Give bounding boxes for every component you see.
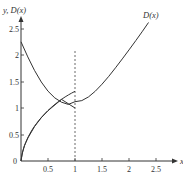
y-tick-label: 2 [15, 51, 19, 60]
y-axis-arrow-icon [19, 16, 24, 22]
x-tick-label: 2.5 [151, 165, 161, 174]
x-axis-title: x [179, 156, 183, 166]
y-axis-title: y, D(x) [2, 5, 26, 15]
x-axis-arrow-icon [172, 159, 178, 164]
x-tick-label: 2 [127, 165, 131, 174]
sqrt-curve [21, 91, 75, 161]
x-tick-label: 1 [73, 165, 77, 174]
y-tick-label: 0.5 [9, 131, 19, 140]
d-curve-label: D(x) [142, 10, 159, 20]
y-tick-label: 1 [15, 104, 19, 113]
y-tick-label: 1.5 [9, 78, 19, 87]
d-curve [21, 23, 149, 105]
y-tick-label: 2.5 [9, 25, 19, 34]
chart: 0.5 1 1.5 2 2.5 x 0 0.5 1 1.5 2 2.5 y, D… [0, 0, 183, 181]
y-tick-label: 0 [13, 157, 17, 166]
x-tick-label: 0.5 [43, 165, 53, 174]
x-tick-label: 1.5 [97, 165, 107, 174]
